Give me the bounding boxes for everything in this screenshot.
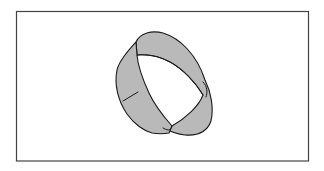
mobius-diagram [0, 0, 324, 171]
mobius-strip [116, 32, 212, 135]
